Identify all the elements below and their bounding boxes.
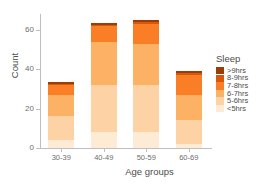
plot-area (40, 14, 210, 148)
legend-color-swatch (216, 90, 224, 97)
bar-segment (48, 116, 74, 140)
bar-segment (91, 132, 117, 148)
bar-segment (176, 120, 202, 144)
bar-segment (91, 85, 117, 132)
legend-color-swatch (216, 82, 224, 89)
x-axis-title: Age groups (0, 166, 271, 177)
legend-title: Sleep (216, 54, 271, 64)
bar-segment (133, 44, 159, 85)
legend-item[interactable]: <5hrs (216, 105, 271, 113)
bar-40-49 (91, 23, 117, 148)
bar-segment (91, 42, 117, 85)
legend-color-swatch (216, 105, 224, 112)
legend-color-swatch (216, 75, 224, 82)
bar-segment (48, 84, 74, 85)
x-tick-label: 30-39 (41, 154, 81, 162)
y-tick-mark (36, 30, 40, 31)
bar-segment (91, 26, 117, 42)
x-tick-mark (61, 148, 62, 152)
y-tick-mark (36, 69, 40, 70)
bar-segment (176, 95, 202, 121)
y-axis-title: Count (9, 36, 20, 96)
bar-segment (133, 85, 159, 132)
bar-segment (48, 85, 74, 95)
y-tick-mark (36, 109, 40, 110)
x-tick-label: 50-59 (126, 154, 166, 162)
x-tick-mark (146, 148, 147, 152)
y-tick-label: 60 (14, 26, 34, 34)
bar-segment (176, 71, 202, 73)
legend-color-swatch (216, 67, 224, 74)
x-tick-mark (189, 148, 190, 152)
x-tick-label: 60-69 (169, 154, 209, 162)
x-axis-title-text: Age groups (125, 166, 174, 177)
bar-segment (133, 24, 159, 44)
legend-color-swatch (216, 97, 224, 104)
bar-60-69 (176, 71, 202, 148)
legend-item-label: <5hrs (227, 105, 246, 113)
bar-segment (91, 25, 117, 26)
stacked-bar-chart: 0204060 30-3940-4950-5960-69 Count Age g… (0, 0, 271, 185)
legend: Sleep >9hrs8-9hrs7-8hrs6-7hrs5-6hrs<5hrs (216, 54, 271, 113)
x-tick-label: 40-49 (84, 154, 124, 162)
bar-segment (176, 75, 202, 95)
bar-segment (133, 20, 159, 22)
legend-entries: >9hrs8-9hrs7-8hrs6-7hrs5-6hrs<5hrs (216, 67, 271, 113)
y-tick-mark (36, 148, 40, 149)
x-tick-mark (104, 148, 105, 152)
bar-segment (48, 82, 74, 84)
bar-50-59 (133, 20, 159, 148)
y-tick-label: 0 (14, 144, 34, 152)
x-axis-line (40, 148, 212, 149)
bar-segment (91, 23, 117, 25)
bar-30-39 (48, 82, 74, 148)
y-axis-line (40, 14, 41, 148)
bar-segment (48, 95, 74, 117)
bar-segment (133, 22, 159, 24)
y-tick-label: 20 (14, 105, 34, 113)
bar-segment (48, 140, 74, 148)
bar-segment (176, 73, 202, 75)
bar-segment (133, 132, 159, 148)
